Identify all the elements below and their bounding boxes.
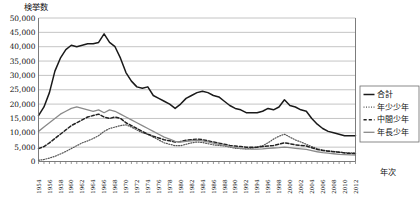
x-axis-tick-label: 1972 <box>134 179 140 194</box>
x-axis-tick-label: 1954 <box>36 179 42 194</box>
legend: 合計年少少年中間少年年長少年 <box>360 86 419 142</box>
y-axis-tick-label: 25,000 <box>10 85 36 94</box>
y-axis-tick-label: 35,000 <box>10 57 36 66</box>
x-axis-tick-label: 1998 <box>276 179 282 194</box>
series-line-0 <box>39 34 356 136</box>
legend-label-1: 年少少年 <box>377 102 409 112</box>
x-axis-tick-label: 1964 <box>90 179 96 194</box>
grid-lines <box>39 18 356 147</box>
y-axis-tick-label: 10,000 <box>10 128 36 137</box>
y-axis-tick-label: 0 <box>31 157 36 166</box>
legend-label-0: 合計 <box>377 89 393 99</box>
data-series-group <box>39 34 356 161</box>
y-axis-tick-label: 45,000 <box>10 28 36 37</box>
x-axis-tick-label: 1988 <box>222 179 228 194</box>
y-axis-title: 検挙数 <box>24 2 48 12</box>
x-axis-tick-label: 2008 <box>331 179 337 194</box>
x-axis-tick-label: 1974 <box>145 179 151 194</box>
x-axis-tick-label: 1982 <box>189 179 195 194</box>
x-axis-title: 年次 <box>380 167 396 177</box>
y-axis-tick-label: 30,000 <box>10 71 36 80</box>
x-axis-tick-label: 1992 <box>243 179 249 194</box>
y-axis-tick-label: 40,000 <box>10 42 36 51</box>
x-axis-tick-label: 2012 <box>353 179 359 194</box>
x-axis-tick-label: 1978 <box>167 179 173 194</box>
x-axis-tick-label: 1970 <box>123 179 129 194</box>
y-axis-tick-label: 20,000 <box>10 100 36 109</box>
x-axis-tick-label: 1968 <box>112 179 118 194</box>
series-line-2 <box>39 114 356 154</box>
x-axis-tick-label: 2010 <box>342 179 348 194</box>
x-axis-tick-label: 1990 <box>232 179 238 194</box>
y-axis-tick-label: 50,000 <box>10 14 36 23</box>
x-axis-tick-label: 1980 <box>178 179 184 194</box>
x-axis-tick-label: 1984 <box>200 179 206 194</box>
x-axis-tick-labels: 1954195619581960196219641966196819701972… <box>36 162 359 194</box>
y-axis-tick-label: 5,000 <box>14 143 35 152</box>
legend-label-3: 年長少年 <box>377 127 409 137</box>
x-axis-tick-label: 1966 <box>101 179 107 194</box>
x-axis-tick-label: 2006 <box>320 179 326 194</box>
x-axis-tick-label: 1962 <box>79 179 85 194</box>
series-line-1 <box>39 125 356 161</box>
x-axis-tick-label: 1956 <box>47 179 53 194</box>
x-axis-tick-label: 1958 <box>58 179 64 194</box>
y-axis-tick-labels: 50,00045,00040,00035,00030,00025,00020,0… <box>10 14 36 167</box>
x-axis-tick-label: 1976 <box>156 179 162 194</box>
x-axis-tick-label: 1994 <box>254 179 260 194</box>
x-axis-tick-label: 2002 <box>298 179 304 194</box>
x-axis-tick-label: 1986 <box>211 179 217 194</box>
x-axis-tick-label: 2004 <box>309 179 315 194</box>
y-axis-tick-label: 15,000 <box>10 114 36 123</box>
legend-label-2: 中間少年 <box>377 114 409 124</box>
x-axis-tick-label: 1960 <box>68 179 74 194</box>
x-axis-tick-label: 2000 <box>287 179 293 194</box>
line-chart: 検挙数 50,00045,00040,00035,00030,00025,000… <box>0 0 420 200</box>
x-axis-tick-label: 1996 <box>265 179 271 194</box>
chart-container: 検挙数 50,00045,00040,00035,00030,00025,000… <box>0 0 420 200</box>
